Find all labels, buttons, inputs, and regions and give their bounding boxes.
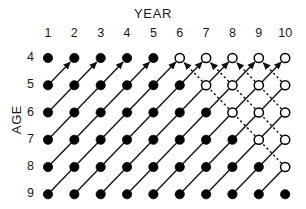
cohort-line-c2 xyxy=(104,62,229,191)
open-circle-marker-y7-a4 xyxy=(202,53,211,62)
filled-circle-marker-y3-a5 xyxy=(96,81,105,90)
filled-circle-marker-y3-a9 xyxy=(96,190,105,199)
filled-circle-marker-y9-a8 xyxy=(254,162,263,171)
filled-circle-marker-y4-a6 xyxy=(122,108,131,117)
filled-circle-marker-y6-a8 xyxy=(175,162,184,171)
filled-circle-marker-y6-a6 xyxy=(175,108,184,117)
open-circle-marker-y9-a6 xyxy=(254,108,263,117)
cohort-line-c4 xyxy=(156,62,281,191)
open-circle-marker-y10-a8 xyxy=(281,162,290,171)
open-circle-marker-y9-a7 xyxy=(254,135,263,144)
filled-circle-marker-y4-a9 xyxy=(122,190,131,199)
cohort-line-c8 xyxy=(262,170,282,191)
cohort-line-c3 xyxy=(130,62,255,191)
filled-circle-marker-y9-a9 xyxy=(254,190,263,199)
filled-circle-marker-y2-a8 xyxy=(70,162,79,171)
filled-circle-marker-y1-a7 xyxy=(43,135,52,144)
filled-circle-marker-y4-a8 xyxy=(122,162,131,171)
filled-circle-marker-y1-a8 xyxy=(43,162,52,171)
filled-circle-marker-y8-a9 xyxy=(228,190,237,199)
filled-circle-marker-y4-a7 xyxy=(122,135,131,144)
cohort-line-c-2 xyxy=(51,62,123,137)
filled-circle-marker-y7-a8 xyxy=(202,162,211,171)
cohort-line-c1 xyxy=(77,62,202,191)
filled-circle-marker-y8-a7 xyxy=(228,135,237,144)
open-circle-marker-y8-a4 xyxy=(228,53,237,62)
filled-circle-marker-y6-a5 xyxy=(175,81,184,90)
filled-circle-marker-y2-a7 xyxy=(70,135,79,144)
filled-circle-marker-y6-a9 xyxy=(175,190,184,199)
filled-circle-marker-y3-a7 xyxy=(96,135,105,144)
open-circle-marker-y7-a5 xyxy=(202,81,211,90)
filled-circle-marker-y8-a8 xyxy=(228,162,237,171)
filled-circle-marker-y3-a4 xyxy=(96,53,105,62)
filled-circle-marker-y5-a7 xyxy=(149,135,158,144)
filled-circle-marker-y7-a6 xyxy=(202,108,211,117)
open-circle-marker-y6-a4 xyxy=(175,53,184,62)
filled-circle-marker-y5-a8 xyxy=(149,162,158,171)
filled-circle-marker-y1-a5 xyxy=(43,81,52,90)
filled-circle-marker-y3-a8 xyxy=(96,162,105,171)
open-circle-marker-y10-a4 xyxy=(281,53,290,62)
open-circle-marker-y10-a5 xyxy=(281,81,290,90)
filled-circle-marker-y2-a6 xyxy=(70,108,79,117)
filled-circle-marker-y4-a4 xyxy=(122,53,131,62)
filled-circle-marker-y1-a9 xyxy=(43,190,52,199)
filled-circle-marker-y4-a5 xyxy=(122,81,131,90)
filled-circle-marker-y2-a4 xyxy=(70,53,79,62)
filled-circle-marker-y3-a6 xyxy=(96,108,105,117)
open-circle-marker-y10-a6 xyxy=(281,108,290,117)
filled-circle-marker-y1-a4 xyxy=(43,53,52,62)
open-circle-marker-y9-a4 xyxy=(254,53,263,62)
filled-circle-marker-y7-a7 xyxy=(202,135,211,144)
filled-circle-marker-y5-a6 xyxy=(149,108,158,117)
cohort-line-group xyxy=(51,62,282,191)
filled-circle-marker-y2-a5 xyxy=(70,81,79,90)
lexis-plot-area xyxy=(0,0,306,209)
cohort-line-c0 xyxy=(51,62,70,82)
filled-circle-marker-y5-a5 xyxy=(149,81,158,90)
filled-circle-marker-y5-a9 xyxy=(149,190,158,199)
open-circle-marker-y8-a5 xyxy=(228,81,237,90)
lexis-diagram-figure: YEAR AGE 12345678910 456789 xyxy=(0,0,306,209)
open-circle-marker-y9-a5 xyxy=(254,81,263,90)
filled-circle-marker-y1-a6 xyxy=(43,108,52,117)
filled-circle-marker-y10-a9 xyxy=(281,190,290,199)
filled-circle-marker-y6-a7 xyxy=(175,135,184,144)
filled-circle-marker-y2-a9 xyxy=(70,190,79,199)
filled-circle-marker-y7-a9 xyxy=(202,190,211,199)
open-circle-marker-y10-a7 xyxy=(281,135,290,144)
filled-circle-marker-y5-a4 xyxy=(149,53,158,62)
cohort-line-c-4 xyxy=(51,62,176,191)
open-circle-marker-y8-a6 xyxy=(228,108,237,117)
